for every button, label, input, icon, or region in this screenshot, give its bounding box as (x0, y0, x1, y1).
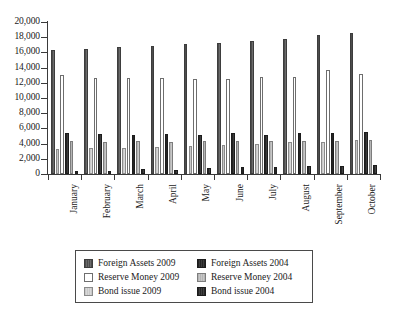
bar (340, 166, 344, 174)
bar (70, 141, 74, 174)
x-axis-tick (247, 174, 248, 180)
bar (222, 145, 226, 174)
bar (169, 142, 173, 174)
bar (302, 141, 306, 174)
legend-label: Reserve Money 2009 (98, 272, 179, 282)
bar (355, 140, 359, 174)
bar (184, 44, 188, 174)
bar-chart: 02,0004,0006,0008,00010,00012,00014,0001… (0, 0, 393, 318)
bar (103, 142, 107, 174)
bar (203, 141, 207, 174)
bar (94, 78, 98, 174)
y-axis-tick (41, 98, 48, 99)
x-axis-tick-label: September (334, 184, 344, 225)
bar (231, 133, 235, 174)
bar (307, 166, 311, 174)
y-axis-tick (41, 22, 48, 23)
bar (198, 135, 202, 174)
bar (65, 133, 69, 174)
bar (207, 168, 211, 174)
bar (75, 171, 79, 174)
bar (260, 77, 264, 174)
bar (283, 39, 287, 174)
bar (151, 46, 155, 174)
x-axis-tick (148, 174, 149, 180)
bar (255, 144, 259, 174)
bar (326, 70, 330, 174)
x-axis-tick (81, 174, 82, 180)
y-axis-tick-label: 0 (2, 169, 40, 179)
x-axis-tick-label: May (201, 184, 211, 201)
legend-swatch-icon (197, 287, 206, 296)
x-axis-tick (380, 174, 381, 180)
bar (174, 170, 178, 174)
legend-label: Reserve Money 2004 (211, 272, 292, 282)
legend-swatch-icon (84, 259, 93, 268)
bar-group (314, 22, 347, 174)
y-axis-tick-label: 10,000 (2, 93, 40, 103)
y-axis-tick (41, 113, 48, 114)
bar (321, 142, 325, 174)
bar (298, 133, 302, 174)
legend-label: Bond issue 2004 (211, 286, 274, 296)
x-axis-tick (214, 174, 215, 180)
bar (274, 167, 278, 174)
x-axis-tick (347, 174, 348, 180)
y-axis-tick (41, 128, 48, 129)
bar (288, 142, 292, 174)
y-axis-tick-label: 4,000 (2, 139, 40, 149)
x-axis-tick (181, 174, 182, 180)
bar (122, 148, 126, 174)
bar (136, 141, 140, 174)
y-axis-tick (41, 68, 48, 69)
y-axis-tick-label: 8,000 (2, 108, 40, 118)
x-axis-tick-label: January (69, 184, 79, 214)
chart-legend: Foreign Assets 2009Foreign Assets 2004Re… (75, 250, 313, 303)
bar (189, 146, 193, 174)
bar (250, 41, 254, 174)
bar (98, 134, 102, 174)
bar-group (247, 22, 280, 174)
y-axis-tick (41, 174, 48, 175)
legend-label: Bond issue 2009 (98, 286, 161, 296)
bar (108, 171, 112, 174)
bar (217, 43, 221, 174)
bar (89, 148, 93, 174)
plot-area (48, 22, 380, 174)
y-axis-tick-label: 6,000 (2, 123, 40, 133)
x-axis-tick (280, 174, 281, 180)
x-axis-tick (114, 174, 115, 180)
legend-item: Reserve Money 2009 (84, 270, 191, 284)
bar (264, 135, 268, 174)
bar (160, 78, 164, 174)
bar (373, 165, 377, 174)
y-axis-tick (41, 83, 48, 84)
bar (269, 141, 273, 174)
y-axis-tick-label: 20,000 (2, 17, 40, 27)
y-axis-tick (41, 144, 48, 145)
bar-group (214, 22, 247, 174)
y-axis-tick (41, 52, 48, 53)
bar (350, 33, 354, 174)
y-axis-tick-label: 14,000 (2, 63, 40, 73)
y-axis-tick-label: 16,000 (2, 47, 40, 57)
bar-group (181, 22, 214, 174)
bar (331, 133, 335, 174)
bar (84, 49, 88, 174)
bar (359, 74, 363, 174)
x-axis-tick-label: July (268, 184, 278, 200)
legend-swatch-icon (197, 259, 206, 268)
y-axis-tick-label: 2,000 (2, 154, 40, 164)
x-axis-tick (48, 174, 49, 180)
bar (236, 141, 240, 174)
bar (193, 79, 197, 174)
bar-group (347, 22, 380, 174)
bar (293, 77, 297, 174)
y-axis-tick (41, 37, 48, 38)
legend-label: Foreign Assets 2004 (211, 258, 289, 268)
x-axis-tick-label: August (301, 184, 311, 211)
bar (335, 141, 339, 174)
legend-label: Foreign Assets 2009 (98, 258, 176, 268)
x-axis-tick-label: October (367, 184, 377, 215)
legend-item: Foreign Assets 2009 (84, 256, 191, 270)
